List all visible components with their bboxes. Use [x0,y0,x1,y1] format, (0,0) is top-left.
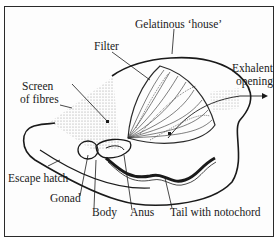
label-tail-with-notochord: Tail with notochord [170,206,261,219]
label-anus: Anus [130,206,154,219]
label-gelatinous-house: Gelatinous ‘house’ [135,18,222,31]
exhalent-stipple [210,88,240,112]
label-filter: Filter [94,40,119,53]
label-body: Body [92,206,117,219]
label-screen-line2: of fibres [20,93,59,106]
label-exhalent-line2: opening [236,75,273,88]
label-exhalent-line1: Exhalent [232,62,273,75]
exhalent-arrow [168,96,262,138]
screen-of-fibres-stipple [50,77,120,150]
label-gonad: Gonad [50,192,81,205]
label-screen-line1: Screen [22,80,53,93]
tail-shape [106,158,215,181]
label-escape-hatch: Escape hatch [8,172,68,185]
filter-fan [128,66,215,143]
